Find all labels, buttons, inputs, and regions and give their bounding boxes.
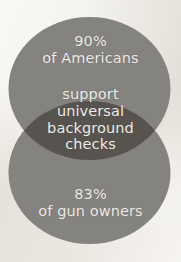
americans-percent: 90%	[0, 33, 181, 50]
venn-label-intersection: support universal background checks	[0, 86, 181, 153]
venn-diagram-figure: 90% of Americans support universal backg…	[0, 0, 181, 262]
gun-owners-percent: 83%	[0, 186, 181, 203]
americans-group-label: of Americans	[0, 50, 181, 67]
intersection-line-3: background	[0, 120, 181, 137]
gun-owners-group-label: of gun owners	[0, 203, 181, 220]
venn-label-americans: 90% of Americans	[0, 33, 181, 67]
venn-label-gun-owners: 83% of gun owners	[0, 186, 181, 220]
intersection-line-4: checks	[0, 136, 181, 153]
intersection-line-2: universal	[0, 103, 181, 120]
intersection-line-1: support	[0, 86, 181, 103]
